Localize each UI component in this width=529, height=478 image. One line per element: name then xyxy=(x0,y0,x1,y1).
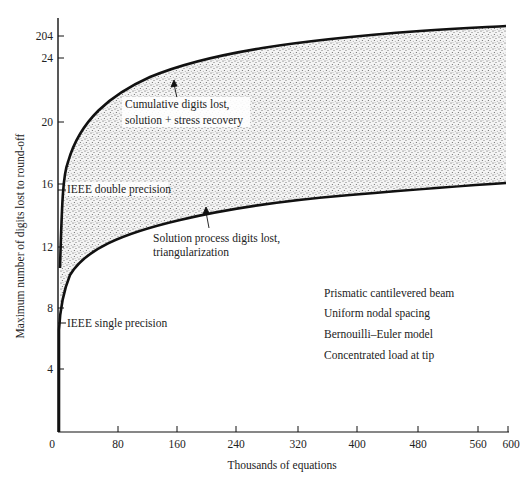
x-tick-label: 560 xyxy=(469,438,487,450)
lower-curve-label: triangularization xyxy=(153,246,229,259)
y-tick-label: 8 xyxy=(47,302,53,314)
ieee-single-label: IEEE single precision xyxy=(67,317,168,330)
shaded-region xyxy=(60,26,506,310)
x-tick-label: 320 xyxy=(289,438,307,450)
y-tick-label: 4 xyxy=(47,363,53,375)
x-tick-label: 0 xyxy=(49,438,55,450)
x-tick-label: 240 xyxy=(227,438,245,450)
lower-curve-label: Solution process digits lost, xyxy=(153,232,280,245)
model-note: Concentrated load at tip xyxy=(324,349,434,362)
x-tick-label: 160 xyxy=(168,438,186,450)
y-tick-label: 204 xyxy=(36,30,54,42)
y-tick-label: 24 xyxy=(42,52,54,64)
x-axis-title: Thousands of equations xyxy=(227,459,337,472)
x-tick-label: 600 xyxy=(502,438,520,450)
y-tick-label: 12 xyxy=(42,241,54,253)
x-tick-label: 80 xyxy=(112,438,124,450)
y-axis-title: Maximum number of digits lost to round-o… xyxy=(14,133,27,338)
upper-curve-label: solution + stress recovery xyxy=(125,114,243,127)
x-tick-label: 480 xyxy=(409,438,427,450)
y-tick-label: 16 xyxy=(42,178,54,190)
ieee-double-label: IEEE double precision xyxy=(67,183,171,196)
x-tick-label: 400 xyxy=(348,438,366,450)
model-note: Uniform nodal spacing xyxy=(324,307,430,320)
y-tick-label: 20 xyxy=(42,116,54,128)
model-note: Prismatic cantilevered beam xyxy=(324,287,454,299)
x-ticks xyxy=(118,426,508,432)
model-note: Bernouilli–Euler model xyxy=(324,328,433,340)
upper-curve-label: Cumulative digits lost, xyxy=(125,98,230,111)
model-notes: Prismatic cantilevered beam Uniform noda… xyxy=(324,287,454,362)
chart-canvas: 4 8 12 16 20 24 204 0 80 160 240 320 400… xyxy=(0,0,529,478)
